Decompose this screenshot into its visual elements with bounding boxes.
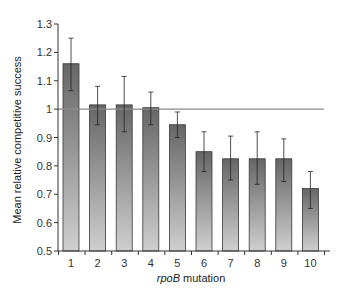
- bar-4: [143, 108, 159, 251]
- x-tick-label: 5: [174, 257, 180, 269]
- y-tick-label: 0.7: [37, 188, 52, 200]
- x-axis-label: rpoB mutation: [157, 272, 226, 284]
- x-tick-label: 7: [228, 257, 234, 269]
- y-tick-label: 1.2: [37, 46, 52, 58]
- y-tick-label: 0.8: [37, 160, 52, 172]
- bar-1: [63, 64, 79, 251]
- y-tick-label: 1.3: [37, 18, 52, 30]
- y-axis-label: Mean relative competitive success: [11, 56, 23, 224]
- x-tick-label: 2: [95, 257, 101, 269]
- x-tick-label: 3: [121, 257, 127, 269]
- bar-5: [169, 125, 185, 251]
- x-tick-label: 10: [304, 257, 316, 269]
- bar-chart: 0.50.60.70.80.911.11.21.3 12345678910 Me…: [0, 0, 339, 297]
- x-tick-label: 1: [68, 257, 74, 269]
- y-tick-label: 0.9: [37, 132, 52, 144]
- y-tick-label: 1.1: [37, 75, 52, 87]
- y-tick-label: 0.5: [37, 245, 52, 257]
- y-tick-label: 1: [46, 103, 52, 115]
- x-axis: 12345678910: [58, 251, 330, 269]
- x-tick-label: 8: [254, 257, 260, 269]
- bar-2: [90, 105, 106, 251]
- x-tick-label: 4: [148, 257, 154, 269]
- y-axis: 0.50.60.70.80.911.11.21.3: [37, 18, 58, 257]
- x-tick-label: 6: [201, 257, 207, 269]
- y-tick-label: 0.6: [37, 217, 52, 229]
- x-tick-label: 9: [281, 257, 287, 269]
- bars-group: [63, 64, 318, 251]
